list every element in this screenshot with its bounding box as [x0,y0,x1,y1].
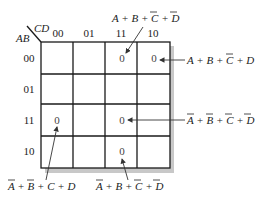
col-variable-label: CD [34,22,49,34]
row-labels: 00 01 11 10 [24,52,36,157]
annotation-bottom-left: A + B + C + D [7,180,75,192]
row-label-01: 01 [24,83,35,95]
annotation-top: A + B + C + D [111,12,179,24]
cell-11-11: 0 [119,114,125,126]
annotation-bottom-mid: A + B + C + D [95,180,163,192]
row-variable-label: AB [15,32,30,44]
row-label-11: 11 [24,114,35,126]
row-label-00: 00 [24,52,36,64]
column-labels: 00 01 11 10 [53,27,160,39]
cell-10-11: 0 [119,145,125,157]
col-label-10: 10 [148,27,160,39]
cell-11-00: 0 [54,114,60,126]
col-label-01: 01 [84,27,95,39]
karnaugh-map-diagram: CD AB 00 01 11 10 00 01 11 10 0 0 0 0 0 [0,0,267,201]
col-label-11: 11 [116,27,127,39]
row-label-10: 10 [24,145,36,157]
annotation-right-mid: A + B + C + D [186,114,254,126]
cell-00-11: 0 [119,52,125,64]
cell-00-10: 0 [151,52,157,64]
col-label-00: 00 [53,27,65,39]
annotation-right-top: A + B + C + D [186,54,254,66]
